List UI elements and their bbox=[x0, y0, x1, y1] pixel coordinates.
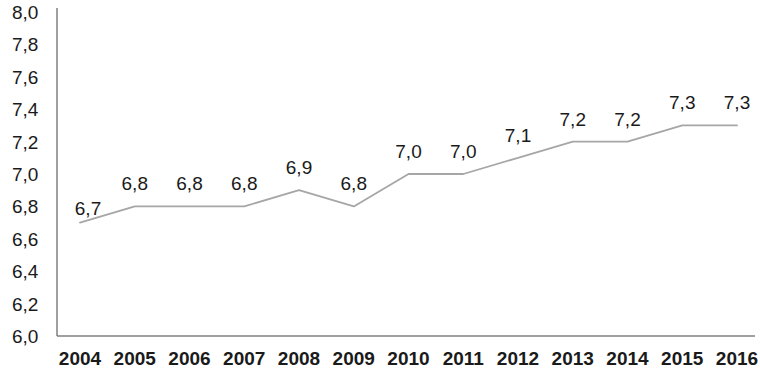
data-point-label: 6,8 bbox=[231, 174, 257, 193]
data-point-label: 6,9 bbox=[286, 158, 312, 177]
data-point-label: 7,0 bbox=[395, 142, 421, 161]
data-point-label: 7,3 bbox=[724, 93, 750, 112]
data-point-label: 6,8 bbox=[341, 174, 367, 193]
data-point-label: 6,8 bbox=[122, 174, 148, 193]
data-point-label: 7,3 bbox=[669, 93, 695, 112]
data-point-label: 6,7 bbox=[75, 199, 101, 218]
data-point-labels: 6,76,86,86,86,96,87,07,07,17,27,27,37,3 bbox=[0, 0, 760, 375]
data-point-label: 7,2 bbox=[560, 110, 586, 129]
data-point-label: 7,2 bbox=[614, 110, 640, 129]
data-point-label: 6,8 bbox=[176, 174, 202, 193]
line-chart: 8,07,87,67,47,27,06,86,66,46,26,0 200420… bbox=[0, 0, 760, 375]
data-point-label: 7,0 bbox=[450, 142, 476, 161]
data-point-label: 7,1 bbox=[505, 126, 531, 145]
